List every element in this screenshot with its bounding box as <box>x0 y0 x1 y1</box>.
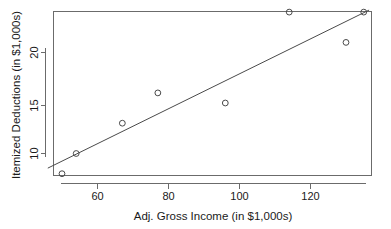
data-point <box>286 9 292 15</box>
x-axis-title: Adj. Gross Income (in $1,000s) <box>134 210 293 222</box>
y-tick-label-10: 10 <box>28 147 40 159</box>
regression-line <box>48 10 369 168</box>
x-tick-marks <box>98 184 311 189</box>
plot-frame <box>54 12 372 176</box>
data-point <box>222 100 228 106</box>
y-tick-label-20: 20 <box>28 46 40 58</box>
y-tick-marks <box>41 53 46 154</box>
x-tick-label-80: 80 <box>162 190 174 202</box>
x-tick-label-100: 100 <box>230 190 248 202</box>
data-point <box>119 120 125 126</box>
scatter-plot-figure: 60 80 100 120 20 15 10 Adj. Gross Income… <box>0 0 391 229</box>
data-point <box>343 40 349 46</box>
y-tick-label-15: 15 <box>28 99 40 111</box>
data-point <box>155 90 161 96</box>
plot-canvas: 60 80 100 120 20 15 10 Adj. Gross Income… <box>0 0 391 229</box>
x-tick-label-60: 60 <box>91 190 103 202</box>
x-tick-label-120: 120 <box>301 190 319 202</box>
y-axis-title: Itemized Deductions (in $1,000s) <box>10 11 22 179</box>
